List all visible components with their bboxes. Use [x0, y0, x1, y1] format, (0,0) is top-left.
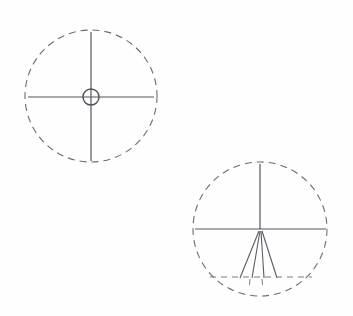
diagram-lower-right	[193, 162, 327, 296]
fan-ray-4	[262, 231, 277, 278]
tick-below-chord-2	[262, 279, 263, 289]
tick-below-chord-1	[249, 279, 250, 289]
fan-ray-3	[261, 231, 264, 278]
figure-svg	[0, 0, 353, 316]
diagram-upper-left	[25, 30, 157, 162]
figure-canvas	[0, 0, 353, 316]
